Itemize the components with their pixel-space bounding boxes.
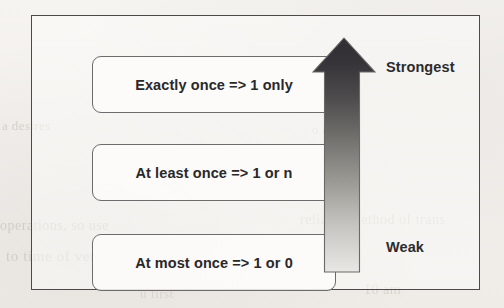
box-label: At least once => 1 or n — [135, 165, 292, 181]
delivery-guarantee-box-exactly-once: Exactly once => 1 only — [92, 56, 336, 113]
delivery-guarantee-box-at-most-once: At most once => 1 or 0 — [92, 234, 336, 291]
box-label: Exactly once => 1 only — [135, 77, 293, 93]
delivery-guarantee-box-at-least-once: At least once => 1 or n — [92, 144, 336, 201]
arrow-label-strongest: Strongest — [386, 59, 455, 75]
scanned-page: a desires operations, so use to time of … — [0, 0, 504, 308]
up-arrow-icon — [311, 37, 377, 274]
arrow-label-weak: Weak — [386, 239, 424, 255]
box-label: At most once => 1 or 0 — [135, 255, 293, 271]
